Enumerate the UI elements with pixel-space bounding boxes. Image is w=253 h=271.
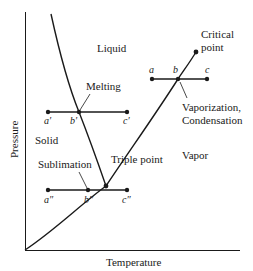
sublimation-line <box>25 183 106 250</box>
label-c-dprime: c″ <box>122 194 131 205</box>
sublimation-curve-drawn <box>25 181 106 250</box>
label-b-dprime: b″ <box>84 194 94 205</box>
vaporization-leader <box>180 82 187 98</box>
triple-point-dot <box>104 184 109 189</box>
critical-point-dot <box>194 50 199 55</box>
phase-diagram: Liquid Solid Vapor Critical point Meltin… <box>0 0 253 271</box>
point-b-dprime <box>86 188 90 192</box>
sublimation-leader <box>79 172 87 188</box>
x-axis-label: Temperature <box>106 256 162 268</box>
critical-point-label-1: Critical <box>201 28 234 40</box>
vaporization-label-2: Condensation <box>182 114 243 126</box>
point-a <box>150 77 154 81</box>
melting-label: Melting <box>86 80 121 92</box>
point-c <box>205 77 209 81</box>
point-c-dprime <box>125 188 129 192</box>
region-solid: Solid <box>35 134 59 146</box>
point-b-prime <box>77 110 81 114</box>
point-a-prime <box>46 110 50 114</box>
melting-leader <box>80 94 90 110</box>
label-c: c <box>205 64 210 75</box>
region-liquid: Liquid <box>97 42 127 54</box>
region-vapor: Vapor <box>182 149 209 161</box>
label-b-prime: b′ <box>70 115 78 126</box>
label-b: b <box>173 64 178 75</box>
point-a-dprime <box>46 188 50 192</box>
vaporization-label-1: Vaporization, <box>182 101 241 113</box>
triple-point-label: Triple point <box>111 153 163 165</box>
label-a-dprime: a″ <box>44 194 54 205</box>
sublimation-curve-main <box>25 183 106 250</box>
label-c-prime: c′ <box>123 115 130 126</box>
y-axis-label: Pressure <box>8 121 20 158</box>
sublimation-path <box>25 186 106 250</box>
label-a: a <box>149 64 154 75</box>
point-c-prime <box>125 110 129 114</box>
label-a-prime: a′ <box>44 115 52 126</box>
critical-point-label-2: point <box>201 41 224 53</box>
sublimation-label: Sublimation <box>38 158 92 170</box>
point-b <box>176 77 180 81</box>
